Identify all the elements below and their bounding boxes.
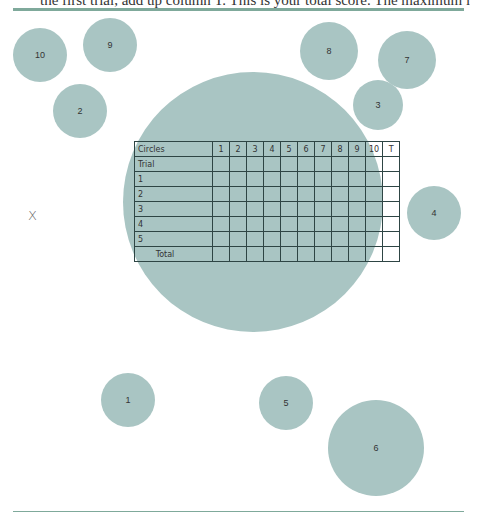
cell[interactable]: [366, 172, 383, 187]
cell[interactable]: [247, 187, 264, 202]
cell[interactable]: [315, 157, 332, 172]
cell[interactable]: [213, 202, 230, 217]
circle-1[interactable]: 1: [101, 373, 155, 427]
cell[interactable]: [315, 202, 332, 217]
cell[interactable]: [247, 172, 264, 187]
cell[interactable]: [332, 247, 349, 262]
cell[interactable]: [213, 217, 230, 232]
cell[interactable]: [281, 172, 298, 187]
circle-6[interactable]: 6: [328, 400, 424, 496]
cell[interactable]: [298, 247, 315, 262]
cell[interactable]: [281, 247, 298, 262]
col-header: 3: [247, 142, 264, 157]
col-header: 7: [315, 142, 332, 157]
cell[interactable]: [349, 172, 366, 187]
table-row: 3: [135, 202, 400, 217]
circle-label: 10: [35, 50, 45, 60]
cell[interactable]: [264, 217, 281, 232]
cell[interactable]: [383, 232, 400, 247]
cell[interactable]: [315, 172, 332, 187]
cell[interactable]: [332, 217, 349, 232]
cell[interactable]: [332, 232, 349, 247]
cell[interactable]: [366, 187, 383, 202]
circle-10[interactable]: 10: [13, 28, 67, 82]
cell[interactable]: [349, 202, 366, 217]
cell[interactable]: [298, 232, 315, 247]
cell[interactable]: [315, 232, 332, 247]
cell[interactable]: [315, 187, 332, 202]
cell[interactable]: [349, 247, 366, 262]
cell[interactable]: [349, 232, 366, 247]
circle-label: 2: [77, 106, 82, 116]
cell[interactable]: [298, 187, 315, 202]
cell[interactable]: [213, 172, 230, 187]
cell[interactable]: [264, 202, 281, 217]
cell[interactable]: [230, 172, 247, 187]
cell[interactable]: [281, 217, 298, 232]
cell[interactable]: [213, 187, 230, 202]
cell[interactable]: [366, 232, 383, 247]
circle-label: 1: [125, 395, 130, 405]
cell[interactable]: [298, 217, 315, 232]
cell[interactable]: [332, 157, 349, 172]
cell[interactable]: [315, 217, 332, 232]
cell[interactable]: [213, 247, 230, 262]
cell[interactable]: [315, 247, 332, 262]
cell[interactable]: [213, 232, 230, 247]
cell[interactable]: [230, 232, 247, 247]
cell[interactable]: [247, 202, 264, 217]
col-header: 4: [264, 142, 281, 157]
circle-8[interactable]: 8: [300, 22, 358, 80]
cell[interactable]: [383, 202, 400, 217]
cell[interactable]: [281, 187, 298, 202]
cell[interactable]: [281, 157, 298, 172]
circle-5[interactable]: 5: [259, 376, 313, 430]
cell[interactable]: [230, 202, 247, 217]
circle-9[interactable]: 9: [83, 18, 137, 72]
cell[interactable]: [366, 202, 383, 217]
cell[interactable]: [332, 187, 349, 202]
circle-label: 5: [283, 398, 288, 408]
row-label: 3: [135, 202, 213, 217]
table-row: 1: [135, 172, 400, 187]
cell[interactable]: [247, 157, 264, 172]
cell[interactable]: [332, 202, 349, 217]
cell[interactable]: [298, 157, 315, 172]
cell[interactable]: [264, 247, 281, 262]
cell[interactable]: [383, 172, 400, 187]
cell[interactable]: [247, 217, 264, 232]
cell[interactable]: [349, 187, 366, 202]
cell[interactable]: [247, 247, 264, 262]
circle-label: 4: [431, 208, 436, 218]
cell[interactable]: [230, 187, 247, 202]
cell[interactable]: [230, 247, 247, 262]
circle-2[interactable]: 2: [53, 84, 107, 138]
cell[interactable]: [332, 172, 349, 187]
cell[interactable]: [281, 232, 298, 247]
cell[interactable]: [383, 217, 400, 232]
cell[interactable]: [366, 217, 383, 232]
cell[interactable]: [298, 172, 315, 187]
cell[interactable]: [264, 157, 281, 172]
cell[interactable]: [366, 157, 383, 172]
cell[interactable]: [298, 202, 315, 217]
cell[interactable]: [366, 247, 383, 262]
cell[interactable]: [349, 217, 366, 232]
cell[interactable]: [383, 187, 400, 202]
col-header: 10: [366, 142, 383, 157]
cell[interactable]: [264, 232, 281, 247]
cell[interactable]: [281, 202, 298, 217]
cell[interactable]: [383, 247, 400, 262]
cell[interactable]: [230, 157, 247, 172]
cell[interactable]: [264, 172, 281, 187]
circle-3[interactable]: 3: [353, 80, 403, 130]
cell[interactable]: [349, 157, 366, 172]
cell[interactable]: [213, 157, 230, 172]
cell[interactable]: [230, 217, 247, 232]
circle-7[interactable]: 7: [378, 31, 436, 89]
cell[interactable]: [247, 232, 264, 247]
cell[interactable]: [383, 157, 400, 172]
col-header: 2: [230, 142, 247, 157]
circle-4[interactable]: 4: [407, 186, 461, 240]
cell[interactable]: [264, 187, 281, 202]
